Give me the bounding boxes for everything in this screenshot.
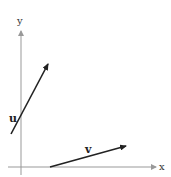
vector-diagram: y x u v [0,0,171,177]
vector-u-label: u [9,112,17,125]
x-axis-label: x [159,161,165,172]
vector-v-label: v [84,143,92,156]
y-axis-label: y [16,15,23,26]
